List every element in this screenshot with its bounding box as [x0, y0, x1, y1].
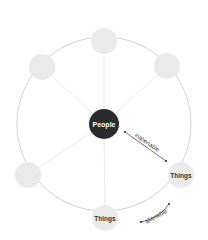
things-bottom-label: Things: [94, 215, 116, 223]
people-label: People: [93, 121, 116, 129]
people-things-diagram: People Things Things inalienable alienab…: [0, 0, 208, 240]
node-top-right: [154, 53, 180, 79]
alienable-label: alienable: [144, 208, 169, 225]
inalienable-label: inalienable: [134, 132, 161, 154]
node-top: [91, 28, 117, 54]
node-left: [15, 162, 41, 188]
things-right-label: Things: [170, 172, 192, 180]
node-top-left: [29, 54, 55, 80]
